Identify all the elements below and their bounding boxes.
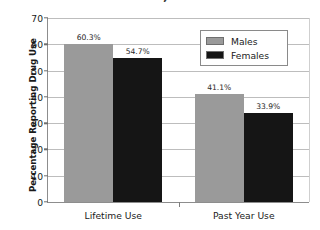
bar-males-past-year-use: 41.1% — [195, 94, 244, 202]
legend-swatch-females-icon — [206, 51, 224, 59]
bar-value-label: 60.3% — [77, 33, 101, 42]
y-axis-tick-mark — [44, 96, 48, 97]
legend-item-females: Females — [206, 48, 282, 62]
x-axis-tick-separator — [179, 202, 180, 207]
y-axis-tick-label: 60 — [31, 39, 43, 50]
bar-value-label: 41.1% — [207, 83, 231, 92]
y-axis-tick-label: 20 — [31, 144, 43, 155]
legend-label-males: Males — [231, 36, 258, 47]
bar-chart: Gender, 2013 Percentage Reporting Drug U… — [0, 0, 320, 230]
bar-females-lifetime-use: 54.7% — [113, 58, 162, 202]
bar-value-label: 33.9% — [256, 102, 280, 111]
chart-title: Gender, 2013 — [0, 0, 320, 3]
y-axis-tick-label: 0 — [37, 197, 43, 208]
x-axis-category-label: Past Year Use — [213, 210, 275, 221]
legend-item-males: Males — [206, 34, 282, 48]
y-axis-tick-mark — [44, 122, 48, 123]
plot-right-edge — [309, 18, 310, 202]
y-axis-tick-mark — [44, 70, 48, 71]
gridline — [48, 18, 309, 19]
chart-legend: Males Females — [200, 30, 288, 66]
y-axis-tick-mark — [44, 175, 48, 176]
y-axis-tick-label: 70 — [31, 13, 43, 24]
x-axis-category-label: Lifetime Use — [85, 210, 142, 221]
y-axis-tick-mark — [44, 149, 48, 150]
y-axis-tick-label: 30 — [31, 118, 43, 129]
y-axis-tick-label: 40 — [31, 91, 43, 102]
y-axis-tick-label: 50 — [31, 65, 43, 76]
bar-value-label: 54.7% — [126, 47, 150, 56]
bar-females-past-year-use: 33.9% — [244, 113, 293, 202]
y-axis-tick-label: 10 — [31, 170, 43, 181]
y-axis-tick-mark — [44, 201, 48, 202]
legend-label-females: Females — [231, 50, 269, 61]
bar-males-lifetime-use: 60.3% — [64, 44, 113, 203]
legend-swatch-males-icon — [206, 37, 224, 45]
y-axis-tick-mark — [44, 17, 48, 18]
y-axis-tick-mark — [44, 44, 48, 45]
